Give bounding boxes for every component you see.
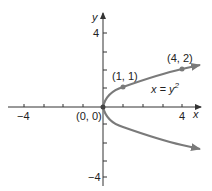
x-tick-label-neg4: −4 xyxy=(17,110,30,122)
y-tick-label-4: 4 xyxy=(93,27,99,39)
x-tick-label-4: 4 xyxy=(179,110,185,122)
parabola-plot: y x 4 −4 −4 4 (0, 0) (1, 1) (4, 2) x = y… xyxy=(0,0,212,191)
point-1-1 xyxy=(121,85,126,90)
point-label-1-1: (1, 1) xyxy=(112,70,138,82)
y-axis-label: y xyxy=(91,11,99,23)
equation-label: x = y2 xyxy=(150,81,180,95)
point-label-4-2: (4, 2) xyxy=(167,52,193,64)
x-axis-label: x xyxy=(192,108,199,120)
point-label-origin: (0, 0) xyxy=(76,110,102,122)
point-origin xyxy=(101,105,106,110)
point-4-2 xyxy=(180,67,185,72)
parabola-lower-branch xyxy=(103,107,200,149)
y-tick-label-neg4: −4 xyxy=(88,171,101,183)
